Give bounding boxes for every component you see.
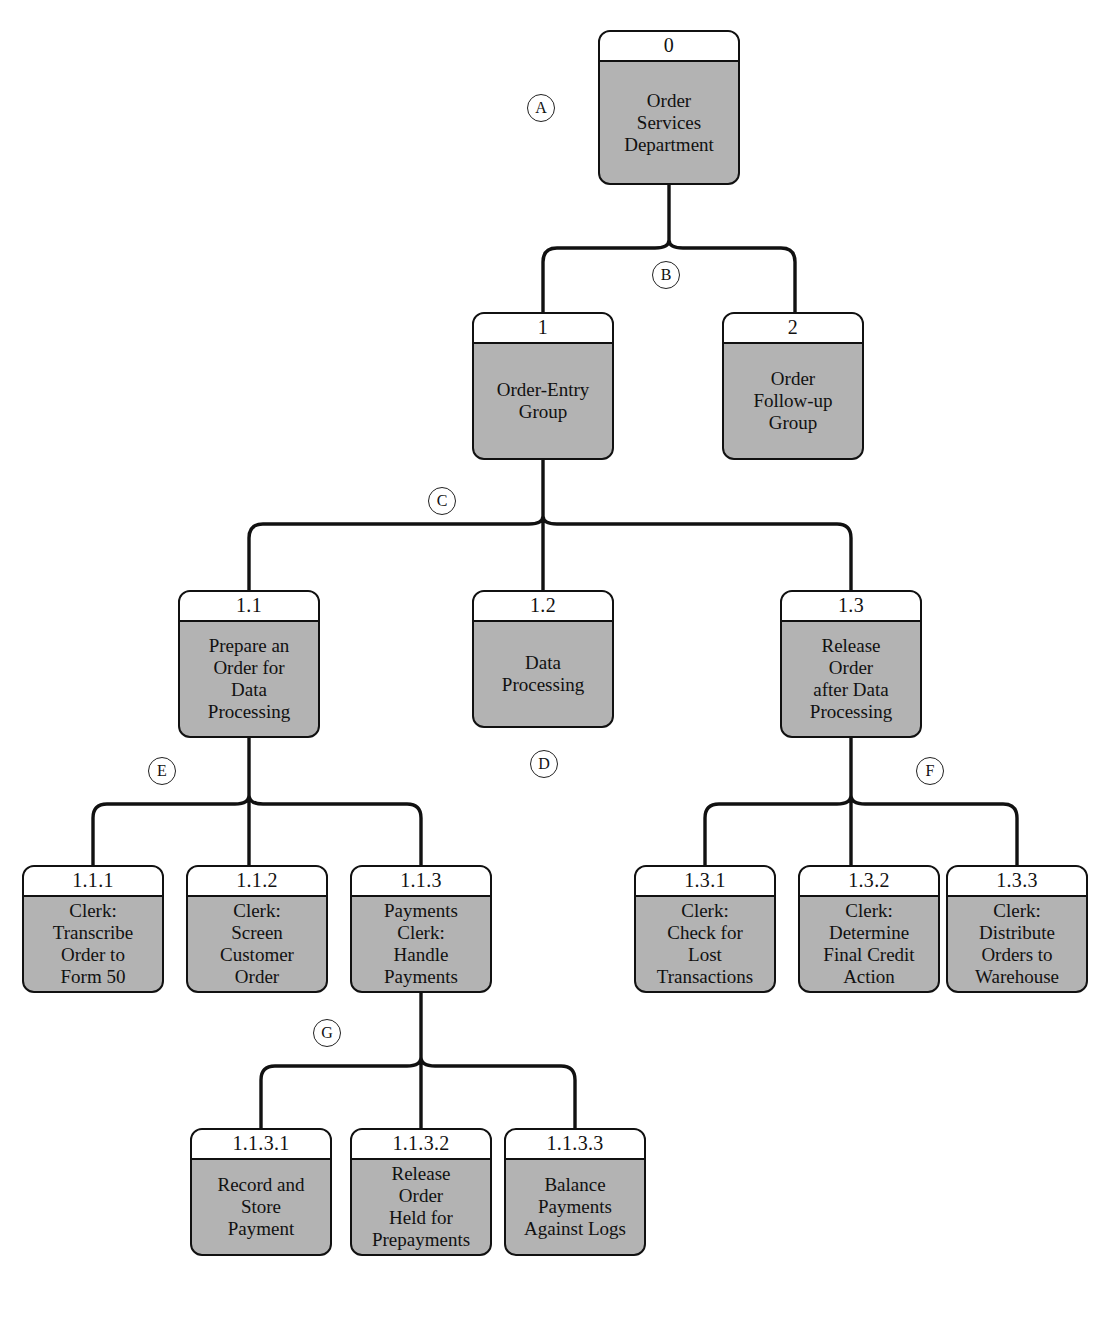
node-label: Prepare an Order for Data Processing — [180, 622, 318, 736]
node-id: 1.1.3.1 — [192, 1130, 330, 1160]
node-1-3-2[interactable]: 1.3.2 Clerk: Determine Final Credit Acti… — [798, 865, 940, 993]
node-id: 2 — [724, 314, 862, 344]
marker-g: G — [313, 1019, 341, 1047]
node-label: Clerk: Transcribe Order to Form 50 — [24, 897, 162, 991]
node-label: Clerk: Screen Customer Order — [188, 897, 326, 991]
node-id: 1.3.3 — [948, 867, 1086, 897]
node-1[interactable]: 1 Order-Entry Group — [472, 312, 614, 460]
node-1-1-1[interactable]: 1.1.1 Clerk: Transcribe Order to Form 50 — [22, 865, 164, 993]
connector-group1-to-tasks — [249, 460, 851, 590]
node-id: 1.1 — [180, 592, 318, 622]
marker-e: E — [148, 757, 176, 785]
marker-c: C — [428, 487, 456, 515]
node-id: 1.3 — [782, 592, 920, 622]
node-1-1-3-2[interactable]: 1.1.3.2 Release Order Held for Prepaymen… — [350, 1128, 492, 1256]
node-1-1-3[interactable]: 1.1.3 Payments Clerk: Handle Payments — [350, 865, 492, 993]
node-1-2[interactable]: 1.2 Data Processing — [472, 590, 614, 728]
node-2[interactable]: 2 Order Follow-up Group — [722, 312, 864, 460]
node-1-3[interactable]: 1.3 Release Order after Data Processing — [780, 590, 922, 738]
node-1-3-3[interactable]: 1.3.3 Clerk: Distribute Orders to Wareho… — [946, 865, 1088, 993]
node-id: 1.1.2 — [188, 867, 326, 897]
node-id: 1.1.3 — [352, 867, 490, 897]
node-id: 0 — [600, 32, 738, 62]
node-id: 1.3.1 — [636, 867, 774, 897]
node-1-3-1[interactable]: 1.3.1 Clerk: Check for Lost Transactions — [634, 865, 776, 993]
node-label: Data Processing — [474, 622, 612, 726]
connector-113-to-subtasks — [261, 993, 575, 1128]
node-0[interactable]: 0 Order Services Department — [598, 30, 740, 185]
node-label: Payments Clerk: Handle Payments — [352, 897, 490, 991]
node-label: Clerk: Check for Lost Transactions — [636, 897, 774, 991]
node-id: 1.2 — [474, 592, 612, 622]
node-1-1[interactable]: 1.1 Prepare an Order for Data Processing — [178, 590, 320, 738]
node-id: 1.1.1 — [24, 867, 162, 897]
node-label: Order Follow-up Group — [724, 344, 862, 458]
node-label: Release Order after Data Processing — [782, 622, 920, 736]
marker-a: A — [527, 94, 555, 122]
node-label: Clerk: Distribute Orders to Warehouse — [948, 897, 1086, 991]
connector-root-to-groups — [543, 185, 795, 312]
node-id: 1.3.2 — [800, 867, 938, 897]
connector-13-to-subtasks — [705, 738, 1017, 865]
marker-b: B — [652, 261, 680, 289]
node-1-1-3-1[interactable]: 1.1.3.1 Record and Store Payment — [190, 1128, 332, 1256]
node-label: Record and Store Payment — [192, 1160, 330, 1254]
node-id: 1.1.3.3 — [506, 1130, 644, 1160]
node-label: Order-Entry Group — [474, 344, 612, 458]
diagram-canvas: 0 Order Services Department 1 Order-Entr… — [0, 0, 1093, 1325]
connector-11-to-subtasks — [93, 738, 421, 865]
marker-f: F — [916, 757, 944, 785]
node-1-1-3-3[interactable]: 1.1.3.3 Balance Payments Against Logs — [504, 1128, 646, 1256]
node-label: Clerk: Determine Final Credit Action — [800, 897, 938, 991]
node-id: 1.1.3.2 — [352, 1130, 490, 1160]
node-label: Release Order Held for Prepayments — [352, 1160, 490, 1254]
node-label: Order Services Department — [600, 62, 738, 183]
node-id: 1 — [474, 314, 612, 344]
node-1-1-2[interactable]: 1.1.2 Clerk: Screen Customer Order — [186, 865, 328, 993]
marker-d: D — [530, 750, 558, 778]
node-label: Balance Payments Against Logs — [506, 1160, 644, 1254]
